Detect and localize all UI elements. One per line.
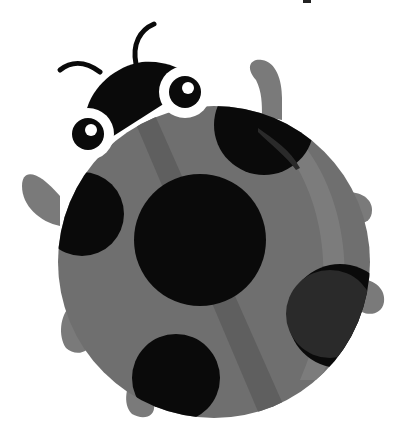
leg-top-right — [250, 60, 282, 120]
eye-left-glint — [85, 124, 97, 136]
spot-center — [134, 174, 266, 306]
eye-right-glint — [182, 82, 194, 94]
cropped-fragment — [303, 0, 311, 3]
eye-right — [159, 66, 211, 118]
leg-left — [22, 174, 60, 226]
antenna-right — [135, 24, 154, 64]
eye-left — [62, 108, 114, 160]
ladybug-illustration: Cartoon ladybug seen from above in grays… — [0, 0, 402, 437]
antenna-left — [60, 64, 100, 73]
spot-right-shade — [286, 270, 374, 358]
